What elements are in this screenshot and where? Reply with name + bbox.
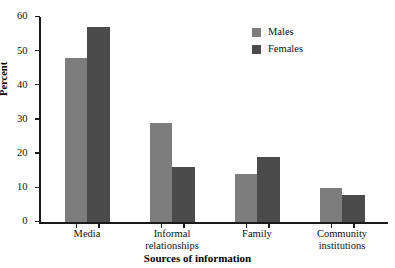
x-tick-3-0 <box>331 224 332 228</box>
legend-label-males: Males <box>268 27 294 38</box>
x-tick-0-1 <box>98 224 99 228</box>
y-axis-title: Percent <box>0 62 9 96</box>
bar-males-0 <box>65 58 88 222</box>
y-tick-label-0: 0 <box>22 216 27 227</box>
x-category-label-line: relationships <box>124 240 220 252</box>
y-tick-label-60: 60 <box>17 11 28 22</box>
y-axis-line <box>39 17 41 222</box>
bar-females-0 <box>87 27 110 222</box>
y-tick-10: 10 <box>35 187 40 188</box>
x-tick-3-1 <box>353 224 354 228</box>
x-category-label-line: Family <box>209 228 305 240</box>
bar-males-2 <box>235 174 258 222</box>
legend-swatch-males <box>252 28 261 37</box>
y-tick-30: 30 <box>35 118 40 119</box>
x-category-label-2: Family <box>209 228 305 240</box>
x-tick-2-1 <box>268 224 269 228</box>
legend-item-males: Males <box>252 24 303 41</box>
bar-females-2 <box>257 157 280 222</box>
x-category-label-line: Media <box>39 228 135 240</box>
x-category-label-3: Communityinstitutions <box>294 228 390 251</box>
y-tick-label-10: 10 <box>17 182 28 193</box>
chart-legend: MalesFemales <box>252 24 303 58</box>
y-tick-0: 0 <box>35 221 40 222</box>
bar-males-3 <box>320 188 343 222</box>
legend-item-females: Females <box>252 41 303 58</box>
x-axis-line <box>39 222 388 224</box>
x-tick-1-0 <box>161 224 162 228</box>
y-tick-60: 60 <box>35 16 40 17</box>
clipped-caption-text: A <box>30 0 38 2</box>
x-category-label-line: Informal <box>124 228 220 240</box>
bar-males-1 <box>150 123 173 222</box>
plot-area: 0102030405060 <box>39 17 388 222</box>
x-category-label-1: Informalrelationships <box>124 228 220 251</box>
y-tick-label-50: 50 <box>17 45 28 56</box>
x-tick-0-0 <box>76 224 77 228</box>
y-tick-20: 20 <box>35 152 40 153</box>
bar-females-1 <box>172 167 195 222</box>
bar-chart-figure: A Percent 0102030405060 MediaInformalrel… <box>0 0 395 268</box>
y-tick-label-30: 30 <box>17 114 28 125</box>
y-tick-40: 40 <box>35 84 40 85</box>
x-category-label-0: Media <box>39 228 135 240</box>
legend-label-females: Females <box>268 44 303 55</box>
y-tick-label-20: 20 <box>17 148 28 159</box>
clipped-caption-strip: A <box>0 0 395 7</box>
x-category-label-line: institutions <box>294 240 390 252</box>
y-tick-50: 50 <box>35 50 40 51</box>
x-category-label-line: Community <box>294 228 390 240</box>
x-tick-1-1 <box>183 224 184 228</box>
bar-females-3 <box>342 195 365 222</box>
x-tick-2-0 <box>246 224 247 228</box>
legend-swatch-females <box>252 45 261 54</box>
x-axis-title: Sources of information <box>0 252 395 264</box>
y-tick-label-40: 40 <box>17 79 28 90</box>
